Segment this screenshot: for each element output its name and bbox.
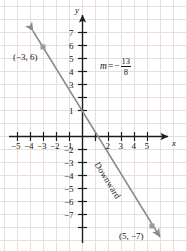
point-label-a: (−3, 6) bbox=[13, 53, 38, 62]
y-tick-label-1: 1 bbox=[69, 107, 74, 116]
x-tick-label-5: 5 bbox=[145, 142, 150, 151]
y-tick-label-4: 4 bbox=[69, 68, 74, 77]
slope-annotation: m = − 13 8 bbox=[100, 57, 131, 76]
x-tick-label--2: −2 bbox=[50, 142, 60, 151]
coordinate-plane bbox=[0, 0, 187, 251]
x-axis bbox=[9, 132, 168, 141]
x-axis-label: x bbox=[172, 139, 176, 148]
y-tick-label--4: −4 bbox=[64, 172, 74, 181]
y-tick-label--6: −6 bbox=[64, 198, 74, 207]
x-tick-label--4: −4 bbox=[24, 142, 34, 151]
y-tick-label--5: −5 bbox=[64, 185, 74, 194]
slope-numerator: 13 bbox=[121, 57, 132, 66]
x-tick-label--5: −5 bbox=[11, 142, 21, 151]
y-axis bbox=[78, 15, 87, 243]
x-tick-label-2: 2 bbox=[106, 142, 111, 151]
graph-figure: −5 −4 −3 −2 −1 2 3 4 5 7 6 5 4 3 1 −2 −3… bbox=[0, 0, 187, 251]
x-tick-label--3: −3 bbox=[37, 142, 47, 151]
slope-variable: m bbox=[100, 62, 107, 72]
y-tick-label-5: 5 bbox=[69, 55, 74, 64]
y-tick-label--3: −3 bbox=[64, 159, 74, 168]
x-tick-label-3: 3 bbox=[119, 142, 124, 151]
y-tick-label-7: 7 bbox=[69, 29, 74, 38]
slope-denominator: 8 bbox=[123, 67, 129, 76]
grid-lines bbox=[0, 0, 187, 251]
point-label-b: (5, −7) bbox=[119, 232, 144, 241]
slope-equals: = bbox=[108, 62, 113, 72]
plotted-line bbox=[33, 31, 160, 237]
y-tick-label--2: −2 bbox=[64, 146, 74, 155]
y-axis-label: y bbox=[75, 6, 79, 15]
y-tick-label-3: 3 bbox=[69, 81, 74, 90]
x-tick-label-4: 4 bbox=[132, 142, 137, 151]
y-tick-label-6: 6 bbox=[69, 42, 74, 51]
y-tick-label--7: −7 bbox=[64, 211, 74, 220]
slope-sign: − bbox=[114, 62, 119, 72]
slope-fraction: 13 8 bbox=[121, 57, 132, 76]
